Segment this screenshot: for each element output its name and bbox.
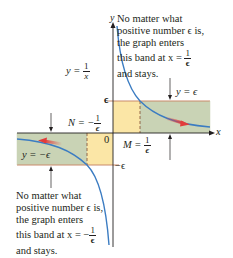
x-axis-arrow-icon xyxy=(209,131,215,136)
right-band-yellow xyxy=(113,101,140,133)
band-bottom-label: y = −ϵ xyxy=(22,149,50,160)
origin-label: 0 xyxy=(104,134,109,145)
neg-eps-tick-label: −ϵ xyxy=(115,160,125,171)
right-band-green xyxy=(140,101,210,133)
eps-tick-label: ϵ xyxy=(104,94,108,105)
band-top-label: y = ϵ xyxy=(176,86,197,97)
fraction: 1ϵ xyxy=(144,136,151,155)
M-label: M = 1ϵ xyxy=(123,136,151,155)
N-label: N = −1ϵ xyxy=(68,114,101,133)
y-axis-label: y xyxy=(110,12,114,23)
fraction: 1x xyxy=(83,62,90,81)
curve-label: y = 1x xyxy=(66,62,90,81)
fraction: 1ϵ xyxy=(184,49,191,68)
pointer-arrowhead-icon xyxy=(49,166,53,171)
left-band-note: No matter what positive number ϵ is, the… xyxy=(16,190,103,257)
x-axis-label: x xyxy=(216,126,221,137)
pointer-arrowhead-icon xyxy=(49,127,53,132)
pointer-arrowhead-icon xyxy=(168,95,172,100)
fraction: 1ϵ xyxy=(94,114,101,133)
pointer-arrowhead-icon xyxy=(168,134,172,139)
right-band-note: No matter what positive number ϵ is, the… xyxy=(117,13,204,80)
fraction: 1ϵ xyxy=(89,226,96,245)
